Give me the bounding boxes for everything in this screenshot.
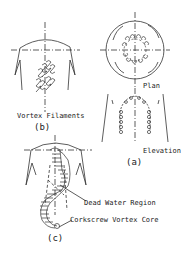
dead-water-leader xyxy=(60,185,86,201)
plan-label: Plan xyxy=(143,82,160,90)
elevation-right-wall xyxy=(163,94,168,142)
dome-c xyxy=(31,143,81,150)
panel-b: Vortex Filaments (b) xyxy=(11,22,84,132)
panel-a: Plan Elevation (a) xyxy=(100,12,181,167)
flow-arrows xyxy=(112,100,159,104)
vortex-filaments-label: Vortex Filaments xyxy=(17,112,84,120)
left-wall-b xyxy=(15,48,22,90)
flow-arc xyxy=(113,26,123,40)
caption-c: (c) xyxy=(47,233,63,243)
flow-arc xyxy=(115,62,124,73)
elevation-label: Elevation xyxy=(143,147,181,155)
flow-arc xyxy=(148,62,158,73)
right-wall-c xyxy=(76,150,86,185)
left-wall-c xyxy=(26,150,36,185)
elevation-left-wall xyxy=(102,94,108,142)
caption-b: (b) xyxy=(34,122,50,132)
panel-c: Dead Water Region Corkscrew Vortex Core … xyxy=(24,135,159,243)
right-wall-b xyxy=(68,47,75,90)
vortex-core-label: Corkscrew Vortex Core xyxy=(70,216,159,224)
caption-a: (a) xyxy=(126,157,142,167)
vortex-filaments xyxy=(36,61,55,93)
vortex-diagram: Vortex Filaments (b) Plan xyxy=(0,0,194,257)
dead-water-label: Dead Water Region xyxy=(84,199,156,207)
vortex-ring-plan xyxy=(123,35,149,64)
